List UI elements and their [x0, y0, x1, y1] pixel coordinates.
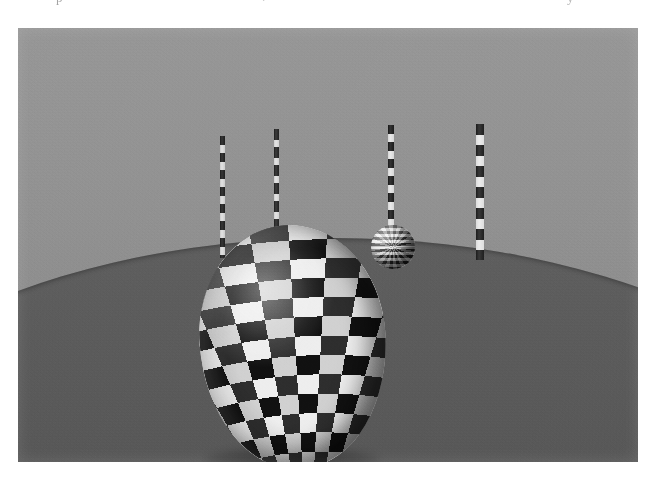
large-checkered-ellipsoid: [192, 219, 394, 462]
scan-artifact-glyph: ': [430, 0, 432, 3]
checkered-pole-4: [476, 124, 484, 260]
pole-specular-highlight: [476, 124, 484, 260]
scan-artifact-row: p . ' y: [0, 0, 657, 16]
scan-artifact-glyph: y: [567, 0, 574, 4]
rendered-3d-scene-image: [18, 28, 638, 462]
scan-artifact-glyph: p: [56, 0, 63, 4]
scan-artifact-glyph: .: [262, 0, 265, 3]
